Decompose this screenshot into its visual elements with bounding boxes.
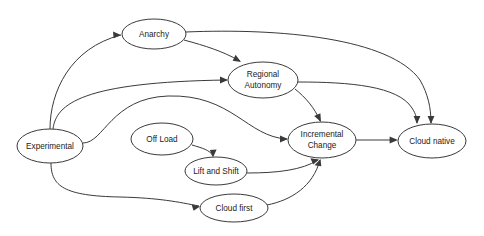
arrowhead-icon [280,136,288,143]
edge-experimental-cloud-first[interactable] [51,163,200,211]
node-label-experimental: Experimental [26,142,74,151]
node-label-cloud-native: Cloud native [409,137,455,146]
arrowhead-icon [390,137,398,144]
node-label-anarchy: Anarchy [139,30,170,39]
arrowhead-icon [314,113,321,122]
node-lift-and-shift[interactable]: Lift and Shift [185,157,247,185]
edge-cloud-first-incremental-change[interactable] [267,159,321,205]
node-cloud-native[interactable]: Cloud native [398,124,466,158]
edge-off-load-lift-and-shift[interactable] [192,145,217,158]
node-label-incremental-change-line1: Incremental [301,130,344,139]
node-label-regional-autonomy-line2: Autonomy [245,81,283,90]
arrowhead-icon [414,116,421,124]
edge-incremental-change-cloud-native[interactable] [356,137,398,144]
edge-lift-and-shift-incremental-change[interactable] [247,158,319,173]
node-label-off-load: Off Load [146,135,178,144]
node-shape [288,122,356,158]
node-anarchy[interactable]: Anarchy [122,19,186,49]
node-layer: Experimental Anarchy Regional Autonomy I… [17,19,466,222]
node-incremental-change[interactable]: Incremental Change [288,122,356,158]
edge-experimental-anarchy[interactable] [50,32,121,130]
arrowhead-icon [233,55,241,62]
node-label-incremental-change-line2: Change [308,141,337,150]
arrowhead-icon [428,116,435,124]
node-off-load[interactable]: Off Load [131,123,193,155]
edge-layer [50,31,434,211]
node-regional-autonomy[interactable]: Regional Autonomy [228,62,298,98]
edge-experimental-regional-autonomy[interactable] [53,77,228,129]
node-label-lift-and-shift: Lift and Shift [193,167,239,176]
edge-anarchy-cloud-native[interactable] [186,31,434,124]
arrowhead-icon [220,77,228,84]
node-label-cloud-first: Cloud first [216,204,254,213]
node-label-regional-autonomy-line1: Regional [247,70,279,79]
node-experimental[interactable]: Experimental [17,129,83,163]
arrowhead-icon [113,32,121,39]
node-shape [228,62,298,98]
edge-anarchy-regional-autonomy[interactable] [184,40,241,62]
edge-regional-autonomy-incremental-change[interactable] [295,89,321,122]
diagram-canvas: Experimental Anarchy Regional Autonomy I… [0,0,484,236]
node-cloud-first[interactable]: Cloud first [200,194,268,222]
cloud-adoption-strategy-diagram: Experimental Anarchy Regional Autonomy I… [0,0,484,236]
